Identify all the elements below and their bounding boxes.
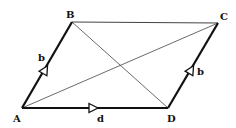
edge-bc (72, 22, 218, 23)
vertex-label-c: C (220, 11, 228, 22)
parallelogram-diagram: A B C D b d b (0, 0, 236, 128)
arrow-icon-ad (89, 104, 98, 113)
vertex-label-b: B (66, 9, 74, 20)
edge-label-dc: b (197, 66, 204, 77)
vertex-label-d: D (167, 113, 176, 124)
diagonal-bd (72, 22, 168, 108)
edge-label-ad: d (97, 113, 104, 124)
edge-ab-vector-b (22, 22, 72, 108)
edge-label-ab: b (38, 52, 45, 63)
vertex-label-a: A (12, 113, 21, 124)
